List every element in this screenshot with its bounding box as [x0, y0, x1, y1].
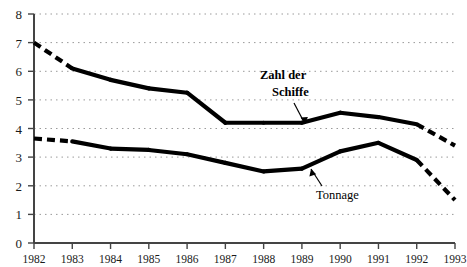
- line-chart-svg: 8 7 6 5 4 3 2 1 0 1982198319841985198619…: [0, 0, 467, 267]
- series-segment-tonnage: [72, 141, 110, 148]
- x-tick-label-1982: 1982: [23, 253, 46, 265]
- x-tick-label-1993: 1993: [444, 253, 467, 265]
- series-segment-zahl-der-schiffe: [34, 43, 72, 69]
- series-segment-zahl-der-schiffe: [417, 124, 455, 145]
- series-segment-zahl-der-schiffe: [187, 93, 225, 123]
- series-segment-zahl-der-schiffe: [340, 113, 378, 117]
- x-tick-label-1983: 1983: [61, 253, 84, 265]
- series-segment-tonnage: [111, 149, 149, 150]
- y-tick-label-4: 4: [16, 122, 23, 137]
- chart-container: 8 7 6 5 4 3 2 1 0 1982198319841985198619…: [0, 0, 467, 267]
- y-tick-label-2: 2: [16, 179, 23, 194]
- series-segment-tonnage: [264, 169, 302, 172]
- y-tick-label-7: 7: [16, 36, 23, 51]
- x-tick-label-1984: 1984: [99, 253, 122, 265]
- series-segment-tonnage: [340, 143, 378, 152]
- y-tick-label-0: 0: [16, 236, 23, 251]
- y-tick-label-1: 1: [16, 207, 23, 222]
- series-segment-zahl-der-schiffe: [72, 68, 110, 79]
- series-segment-zahl-der-schiffe: [302, 113, 340, 123]
- tonnage-label: Tonnage: [316, 188, 359, 202]
- gridlines: [34, 14, 455, 214]
- annotation-zahl-der-schiffe: Zahl der Schiffe: [260, 68, 309, 124]
- y-tick-labels: 8 7 6 5 4 3 2 1 0: [16, 7, 23, 251]
- x-tick-label-1990: 1990: [329, 253, 352, 265]
- series-segment-tonnage: [302, 151, 340, 168]
- x-tick-label-1989: 1989: [290, 253, 313, 265]
- zahl-der-schiffe-label-line1: Zahl der: [260, 68, 307, 82]
- series-segment-tonnage: [34, 139, 72, 142]
- y-tick-label-8: 8: [16, 7, 23, 22]
- y-tick-label-3: 3: [16, 150, 23, 165]
- series-segment-tonnage: [225, 163, 263, 172]
- x-tick-label-1991: 1991: [367, 253, 390, 265]
- y-tick-label-5: 5: [16, 93, 23, 108]
- annotation-tonnage: Tonnage: [309, 169, 359, 202]
- y-tick-label-6: 6: [16, 64, 23, 79]
- series-segment-zahl-der-schiffe: [149, 88, 187, 92]
- series-segment-zahl-der-schiffe: [378, 117, 416, 124]
- series-segment-tonnage: [417, 160, 455, 200]
- x-tick-label-1986: 1986: [176, 253, 199, 265]
- series-segment-zahl-der-schiffe: [111, 80, 149, 89]
- series-segment-tonnage: [187, 154, 225, 163]
- x-tick-label-1992: 1992: [405, 253, 428, 265]
- x-tick-label-1985: 1985: [137, 253, 160, 265]
- x-tick-labels: 1982198319841985198619871988198919901991…: [23, 253, 467, 265]
- series-lines: [34, 43, 455, 200]
- x-tick-label-1987: 1987: [214, 253, 237, 265]
- series-segment-tonnage: [149, 150, 187, 154]
- x-tick-label-1988: 1988: [252, 253, 275, 265]
- zahl-der-schiffe-label-line2: Schiffe: [272, 85, 309, 99]
